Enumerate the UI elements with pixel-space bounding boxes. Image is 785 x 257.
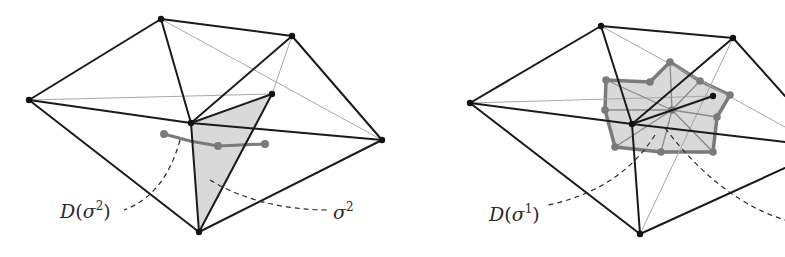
figure: D(σ2) σ2 D(σ1) (0, 0, 785, 257)
paren-close: ) (532, 203, 539, 225)
label-D: D (60, 200, 75, 222)
label-sigma: σ (83, 200, 96, 222)
simplex-sigma2-fill (191, 94, 272, 232)
label-D: D (489, 203, 504, 225)
paren-close: ) (103, 200, 110, 222)
label-sigma: σ (512, 203, 525, 225)
diagram-canvas (0, 0, 785, 257)
paren-open: ( (504, 203, 511, 225)
label-exponent: 2 (346, 200, 354, 214)
dual-cell-fill (605, 62, 730, 152)
label-sigma2: σ2 (333, 201, 354, 222)
paren-open: ( (75, 200, 82, 222)
label-dual-sigma2: D(σ2) (60, 200, 111, 221)
label-sigma: σ (333, 201, 346, 223)
label-dual-sigma1: D(σ1) (489, 203, 540, 224)
